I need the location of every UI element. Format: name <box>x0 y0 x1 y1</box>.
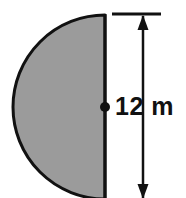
center-point-dot <box>100 102 110 112</box>
geometry-figure: 12 m <box>0 0 186 198</box>
dimension-label: 12 m <box>115 92 174 120</box>
